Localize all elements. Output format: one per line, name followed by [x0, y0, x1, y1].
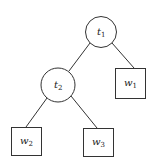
tree-diagram: t1 t2 w1 w2 w3	[0, 0, 151, 166]
edge-t2-w3	[71, 96, 97, 128]
edge-t1-t2	[69, 43, 90, 71]
edge-t1-w1	[112, 43, 134, 68]
edge-t2-w2	[26, 98, 47, 127]
